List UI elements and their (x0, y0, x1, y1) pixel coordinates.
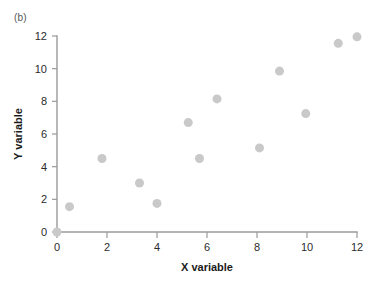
x-tick-label: 0 (54, 241, 60, 253)
data-point (153, 199, 162, 208)
data-point (184, 118, 193, 127)
y-axis-title: Y variable (12, 108, 24, 160)
data-point (65, 202, 74, 211)
data-point (98, 154, 107, 163)
y-tick-label: 12 (35, 30, 47, 42)
data-point (195, 154, 204, 163)
scatter-plot-figure: (b) 024681012 024681012 X variable Y var… (0, 0, 377, 284)
x-axis-title: X variable (181, 261, 233, 273)
data-point (135, 179, 144, 188)
x-tick-label: 12 (351, 241, 363, 253)
x-axis-ticks: 024681012 (54, 232, 363, 253)
x-tick-label: 10 (301, 241, 313, 253)
data-point (255, 143, 264, 152)
y-tick-label: 10 (35, 63, 47, 75)
scatter-plot-canvas: 024681012 024681012 X variable Y variabl… (0, 0, 377, 284)
data-point (301, 109, 310, 118)
x-tick-label: 6 (204, 241, 210, 253)
y-axis-ticks: 024681012 (35, 30, 57, 238)
x-tick-label: 2 (104, 241, 110, 253)
x-tick-label: 4 (154, 241, 160, 253)
x-tick-label: 8 (254, 241, 260, 253)
data-point (334, 39, 343, 48)
y-tick-label: 8 (41, 95, 47, 107)
data-point (213, 94, 222, 103)
data-point (353, 32, 362, 41)
y-tick-label: 2 (41, 193, 47, 205)
data-point (275, 67, 284, 76)
y-tick-label: 6 (41, 128, 47, 140)
data-points-group (53, 32, 362, 236)
y-tick-label: 4 (41, 161, 47, 173)
data-point (53, 228, 62, 237)
y-tick-label: 0 (41, 226, 47, 238)
